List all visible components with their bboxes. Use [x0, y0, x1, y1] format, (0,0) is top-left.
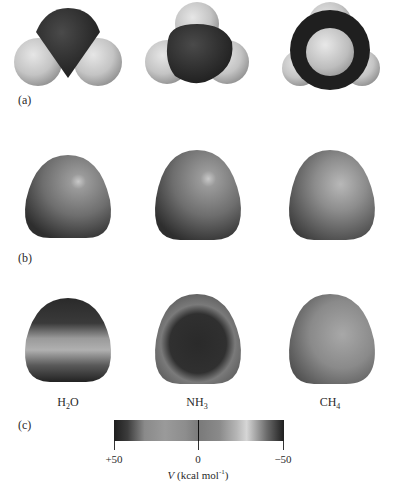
panel-label-c: (c) — [18, 418, 31, 433]
colorbar-axis-label: V (kcal mol-1) — [118, 468, 278, 481]
panel-label-b: (b) — [18, 251, 32, 266]
nh3-potential-map — [155, 294, 241, 384]
h2o-potential-map — [25, 298, 111, 382]
h2o-space-filling-model — [14, 8, 122, 86]
colorbar-tick-right — [283, 441, 284, 450]
h2o-density-surface — [25, 155, 111, 238]
colorbar-tick-label-minus50: −50 — [263, 453, 303, 465]
potential-colorbar — [114, 420, 284, 441]
colorbar-tick-mid — [198, 441, 199, 450]
colorbar-tick-label-zero: 0 — [178, 453, 218, 465]
ch4-potential-map — [289, 294, 375, 384]
colorbar-tick-label-plus50: +50 — [94, 453, 134, 465]
ch4-density-surface — [289, 150, 375, 240]
molecule-name-ch4: CH4 — [300, 395, 360, 411]
nh3-density-surface — [155, 150, 241, 240]
ch4-space-filling-model — [282, 2, 380, 90]
panel-label-a: (a) — [18, 93, 31, 108]
colorbar-zero-line — [198, 420, 199, 441]
molecule-name-h2o: H2O — [38, 395, 98, 411]
molecule-name-nh3: NH3 — [167, 395, 227, 411]
nh3-space-filling-model — [145, 2, 249, 84]
colorbar-tick-left — [114, 441, 115, 450]
